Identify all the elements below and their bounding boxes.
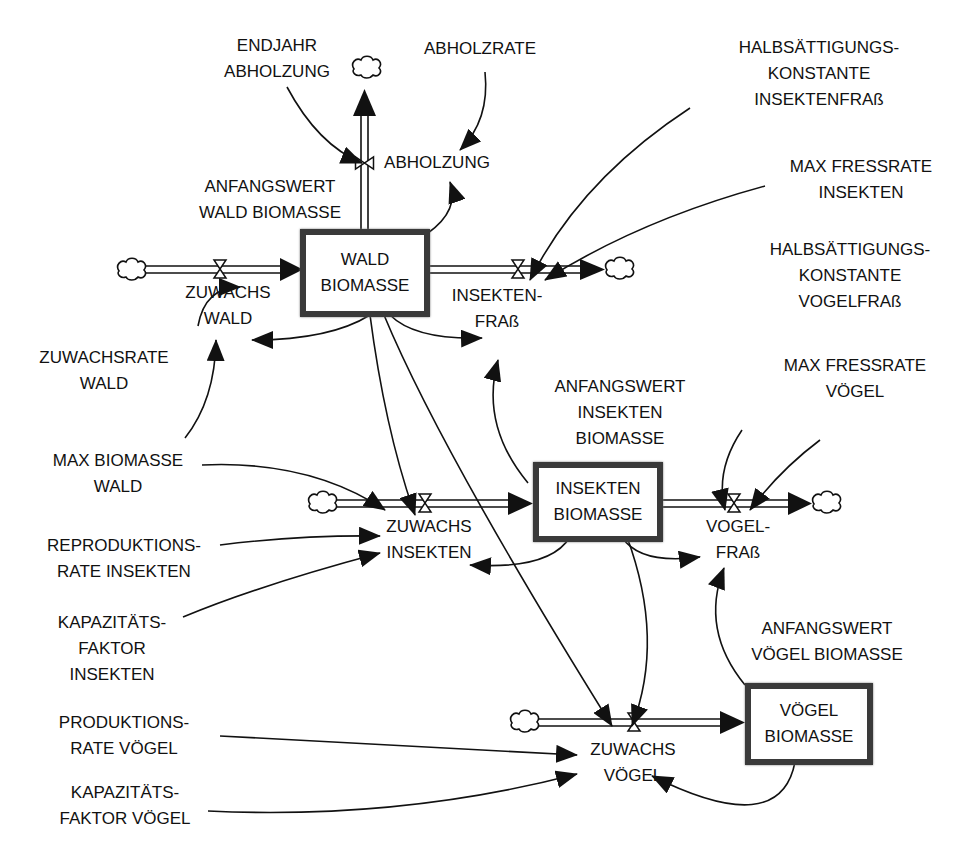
var-kf-insekten-line1: KAPAZITÄTS- [58,610,166,636]
stock-wald-line2: BIOMASSE [321,273,410,299]
var-anfangswert-voegel-biomasse[interactable]: ANFANGSWERT VÖGEL BIOMASSE [751,616,902,668]
flow-insektenfrass-line1: INSEKTEN- [452,283,543,309]
flow-zuwachs-wald-line2: WALD [185,306,270,332]
var-abholzrate-line1: ABHOLZRATE [424,36,536,62]
flow-vogelfrass[interactable]: VOGEL- FRAß [706,514,770,566]
flow-pipe-zuwachs-voegel [535,719,722,726]
flow-vogelfrass-line1: VOGEL- [706,514,770,540]
flow-pipe-zuwachs-insekten [332,500,510,507]
var-kapazitaetsfaktor-insekten[interactable]: KAPAZITÄTS- FAKTOR INSEKTEN [58,610,166,688]
var-anfangswert-wald-line1: ANFANGSWERT [199,174,341,200]
var-endjahr-abholzung-line2: ABHOLZUNG [224,59,330,85]
var-zuwachsrate-wald-line1: ZUWACHSRATE [39,345,168,371]
flow-zuwachs-insekten[interactable]: ZUWACHS INSEKTEN [386,514,471,566]
var-mfr-insekten-line1: MAX FRESSRATE [790,154,932,180]
var-mfr-insekten-line2: INSEKTEN [790,180,932,206]
var-endjahr-abholzung-line1: ENDJAHR [224,33,330,59]
var-zuwachsrate-wald-line2: WALD [39,371,168,397]
var-reprorate-insekten-line1: REPRODUKTIONS- [47,533,201,559]
var-zuwachsrate-wald[interactable]: ZUWACHSRATE WALD [39,345,168,397]
flow-zuwachs-wald-line1: ZUWACHS [185,280,270,306]
flow-pipe-abholzung [361,112,368,230]
flow-zuwachs-voegel-line1: ZUWACHS [590,737,675,763]
flow-insektenfrass-line2: FRAß [452,309,543,335]
var-max-biomasse-wald[interactable]: MAX BIOMASSE WALD [53,448,183,500]
var-prodrate-voegel-line2: RATE VÖGEL [59,736,189,762]
var-anfangswert-insekten-biomasse[interactable]: ANFANGSWERT INSEKTEN BIOMASSE [555,374,686,452]
var-kf-insekten-line3: INSEKTEN [58,662,166,688]
var-hk-vogelfrass-line1: HALBSÄTTIGUNGS- [770,237,931,263]
flow-insektenfrass[interactable]: INSEKTEN- FRAß [452,283,543,335]
flow-zuwachs-insekten-line2: INSEKTEN [386,540,471,566]
var-reprorate-insekten-line2: RATE INSEKTEN [47,559,201,585]
flow-pipe-vogelfrass [660,500,790,507]
var-produktionsrate-voegel[interactable]: PRODUKTIONS- RATE VÖGEL [59,710,189,762]
var-max-fressrate-insekten[interactable]: MAX FRESSRATE INSEKTEN [790,154,932,206]
flow-vogelfrass-line2: FRAß [706,540,770,566]
flow-zuwachs-voegel-line2: VÖGEL [590,763,675,789]
var-anfangswert-insekten-line2: INSEKTEN [555,400,686,426]
flow-zuwachs-insekten-line1: ZUWACHS [386,514,471,540]
var-endjahr-abholzung[interactable]: ENDJAHR ABHOLZUNG [224,33,330,85]
var-kf-insekten-line2: FAKTOR [58,636,166,662]
var-anfangswert-wald-biomasse[interactable]: ANFANGSWERT WALD BIOMASSE [199,174,341,226]
var-anfangswert-wald-line2: WALD BIOMASSE [199,200,341,226]
var-hk-insektenfrass-line3: INSEKTENFRAß [739,87,900,113]
stock-flow-diagram: WALD BIOMASSE INSEKTEN BIOMASSE VÖGEL BI… [0,0,960,854]
stock-wald-line1: WALD [341,247,390,273]
var-kf-voegel-line1: KAPAZITÄTS- [59,780,190,806]
var-mfr-voegel-line2: VÖGEL [784,379,926,405]
var-halbsaettigung-insektenfrass[interactable]: HALBSÄTTIGUNGS- KONSTANTE INSEKTENFRAß [739,35,900,113]
flow-pipe-zuwachs-wald [142,266,282,273]
stock-insekten-line2: BIOMASSE [554,502,643,528]
flow-abholzung-line1: ABHOLZUNG [384,150,490,176]
var-kapazitaetsfaktor-voegel[interactable]: KAPAZITÄTS- FAKTOR VÖGEL [59,780,190,832]
var-halbsaettigung-vogelfrass[interactable]: HALBSÄTTIGUNGS- KONSTANTE VOGELFRAß [770,237,931,315]
stock-insekten-biomasse[interactable]: INSEKTEN BIOMASSE [533,462,663,542]
var-reproduktionsrate-insekten[interactable]: REPRODUKTIONS- RATE INSEKTEN [47,533,201,585]
stock-voegel-line2: BIOMASSE [765,724,854,750]
var-hk-vogelfrass-line2: KONSTANTE [770,263,931,289]
var-hk-insektenfrass-line1: HALBSÄTTIGUNGS- [739,35,900,61]
stock-voegel-biomasse[interactable]: VÖGEL BIOMASSE [745,683,873,765]
var-max-biomasse-wald-line2: WALD [53,474,183,500]
var-anfangswert-voegel-line1: ANFANGSWERT [751,616,902,642]
flow-abholzung[interactable]: ABHOLZUNG [384,150,490,176]
stock-voegel-line1: VÖGEL [780,698,839,724]
var-max-biomasse-wald-line1: MAX BIOMASSE [53,448,183,474]
var-hk-vogelfrass-line3: VOGELFRAß [770,289,931,315]
var-abholzrate[interactable]: ABHOLZRATE [424,36,536,62]
var-max-fressrate-voegel[interactable]: MAX FRESSRATE VÖGEL [784,353,926,405]
flow-zuwachs-voegel[interactable]: ZUWACHS VÖGEL [590,737,675,789]
var-prodrate-voegel-line1: PRODUKTIONS- [59,710,189,736]
var-mfr-voegel-line1: MAX FRESSRATE [784,353,926,379]
var-anfangswert-insekten-line1: ANFANGSWERT [555,374,686,400]
stock-insekten-line1: INSEKTEN [555,476,640,502]
var-anfangswert-insekten-line3: BIOMASSE [555,426,686,452]
flow-zuwachs-wald[interactable]: ZUWACHS WALD [185,280,270,332]
var-kf-voegel-line2: FAKTOR VÖGEL [59,806,190,832]
stock-wald-biomasse[interactable]: WALD BIOMASSE [300,229,430,317]
var-anfangswert-voegel-line2: VÖGEL BIOMASSE [751,642,902,668]
var-hk-insektenfrass-line2: KONSTANTE [739,61,900,87]
